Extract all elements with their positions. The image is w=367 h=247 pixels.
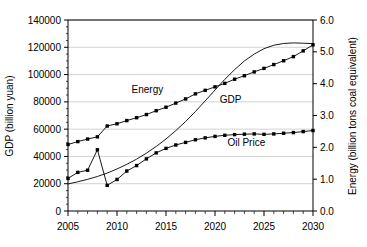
series-label-oil-price: Oil Price bbox=[227, 137, 265, 148]
data-point-marker bbox=[272, 63, 275, 66]
data-point-marker bbox=[233, 133, 236, 136]
y2-tick-label: 0.0 bbox=[320, 206, 334, 217]
x-tick-label: 2010 bbox=[106, 221, 129, 232]
y2-tick-label: 3.0 bbox=[320, 110, 334, 121]
data-point-marker bbox=[174, 143, 177, 146]
data-point-marker bbox=[194, 92, 197, 95]
data-point-marker bbox=[184, 141, 187, 144]
right-axis-title: Energy (billion tons coal equivalent) bbox=[347, 37, 358, 195]
data-point-marker bbox=[164, 147, 167, 150]
data-point-marker bbox=[243, 132, 246, 135]
data-point-marker bbox=[223, 134, 226, 137]
chart-figure: 0200004000060000800001000001200001400000… bbox=[0, 0, 367, 247]
data-point-marker bbox=[204, 136, 207, 139]
data-point-marker bbox=[106, 124, 109, 127]
y-tick-label: 120000 bbox=[28, 42, 62, 53]
data-point-marker bbox=[115, 178, 118, 181]
data-point-marker bbox=[282, 132, 285, 135]
data-point-marker bbox=[282, 59, 285, 62]
data-point-marker bbox=[155, 151, 158, 154]
data-point-marker bbox=[125, 169, 128, 172]
data-point-marker bbox=[243, 74, 246, 77]
data-point-marker bbox=[233, 78, 236, 81]
data-point-marker bbox=[292, 131, 295, 134]
data-point-marker bbox=[223, 82, 226, 85]
x-tick-label: 2015 bbox=[155, 221, 178, 232]
data-point-marker bbox=[125, 119, 128, 122]
data-point-marker bbox=[302, 49, 305, 52]
data-point-marker bbox=[174, 101, 177, 104]
data-point-marker bbox=[184, 97, 187, 100]
x-tick-label: 2025 bbox=[253, 221, 276, 232]
y2-tick-label: 2.0 bbox=[320, 142, 334, 153]
y2-tick-label: 5.0 bbox=[320, 46, 334, 57]
y2-tick-label: 1.0 bbox=[320, 174, 334, 185]
data-point-marker bbox=[115, 122, 118, 125]
series-label-energy: Energy bbox=[132, 84, 164, 95]
x-tick-label: 2005 bbox=[57, 221, 80, 232]
data-point-marker bbox=[262, 67, 265, 70]
data-point-marker bbox=[253, 70, 256, 73]
series-label-gdp: GDP bbox=[220, 94, 242, 105]
data-point-marker bbox=[76, 171, 79, 174]
y-tick-label: 0 bbox=[55, 206, 61, 217]
y2-tick-label: 6.0 bbox=[320, 15, 334, 26]
data-point-marker bbox=[164, 106, 167, 109]
data-point-marker bbox=[253, 132, 256, 135]
data-point-marker bbox=[302, 130, 305, 133]
left-axis-title: GDP (billion yuan) bbox=[4, 76, 15, 157]
data-point-marker bbox=[213, 135, 216, 138]
x-tick-label: 2030 bbox=[302, 221, 325, 232]
y-tick-label: 80000 bbox=[33, 96, 61, 107]
data-point-marker bbox=[86, 169, 89, 172]
data-point-marker bbox=[155, 109, 158, 112]
data-point-marker bbox=[86, 137, 89, 140]
data-point-marker bbox=[96, 148, 99, 151]
data-point-marker bbox=[194, 138, 197, 141]
y2-tick-label: 4.0 bbox=[320, 78, 334, 89]
data-point-marker bbox=[76, 140, 79, 143]
data-point-marker bbox=[145, 157, 148, 160]
gdp-energy-oil-price-chart: 0200004000060000800001000001200001400000… bbox=[0, 0, 367, 247]
y-tick-label: 40000 bbox=[33, 151, 61, 162]
data-point-marker bbox=[204, 89, 207, 92]
data-point-marker bbox=[106, 184, 109, 187]
data-point-marker bbox=[145, 113, 148, 116]
y-tick-label: 60000 bbox=[33, 124, 61, 135]
y-tick-label: 20000 bbox=[33, 178, 61, 189]
data-point-marker bbox=[135, 164, 138, 167]
data-point-marker bbox=[272, 132, 275, 135]
data-point-marker bbox=[292, 55, 295, 58]
y-tick-label: 140000 bbox=[28, 15, 62, 26]
data-point-marker bbox=[262, 133, 265, 136]
x-tick-label: 2020 bbox=[204, 221, 227, 232]
data-point-marker bbox=[96, 135, 99, 138]
data-point-marker bbox=[135, 116, 138, 119]
y-tick-label: 100000 bbox=[28, 69, 62, 80]
